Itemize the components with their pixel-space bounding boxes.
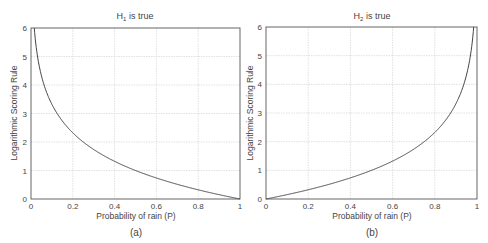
y-tick-label: 3 [258,109,263,118]
y-tick-label: 5 [258,52,263,61]
y-axis-ticks-a: 0123456 [23,24,28,204]
y-tick-label: 3 [23,110,28,119]
y-tick-label: 2 [23,138,28,147]
x-tick-label: 0.8 [193,202,205,211]
chart-title-a: H1 is true [117,11,154,22]
y-tick-label: 1 [23,167,28,176]
y-axis-label-a: Logarithmic Scoring Rule [9,65,19,160]
x-axis-label-a: Probability of rain (P) [96,211,176,221]
y-tick-label: 0 [23,195,28,204]
y-tick-label: 6 [23,24,28,33]
x-tick-label: 0.2 [67,202,79,211]
y-tick-label: 6 [258,23,263,32]
x-tick-label: 0.2 [303,202,315,211]
x-tick-label: 0 [29,202,34,211]
grid-a [31,28,240,199]
x-axis-ticks-b: 00.20.40.60.81 [264,202,480,211]
panel-label-a: (a) [130,227,142,238]
x-tick-label: 1 [475,202,480,211]
svg-text:H1 is true: H1 is true [117,11,154,22]
y-tick-label: 4 [23,81,28,90]
chart-title-b: H2 is true [354,11,391,22]
y-axis-ticks-b: 0123456 [258,23,263,204]
x-tick-label: 0.4 [109,202,121,211]
x-tick-label: 0.6 [151,202,163,211]
y-axis-label-b: Logarithmic Scoring Rule [245,65,255,160]
x-axis-label-b: Probability of rain (P) [332,211,412,221]
panel-label-b: (b) [366,227,378,238]
chart-panel-a: H1 is true 0123456 00.20.40.60.81 Logari… [0,0,244,243]
y-tick-label: 1 [258,166,263,175]
x-axis-ticks-a: 00.20.40.60.81 [29,202,243,211]
x-tick-label: 0.6 [387,202,399,211]
y-tick-label: 0 [258,195,263,204]
x-tick-label: 1 [238,202,243,211]
chart-panel-b: H2 is true 0123456 00.20.40.60.81 Logari… [244,0,488,243]
x-tick-label: 0 [264,202,269,211]
x-tick-label: 0.4 [345,202,357,211]
x-tick-label: 0.8 [429,202,441,211]
y-tick-label: 2 [258,138,263,147]
grid-b [266,27,477,199]
y-tick-label: 5 [23,53,28,62]
y-tick-label: 4 [258,80,263,89]
svg-text:H2 is true: H2 is true [354,11,391,22]
